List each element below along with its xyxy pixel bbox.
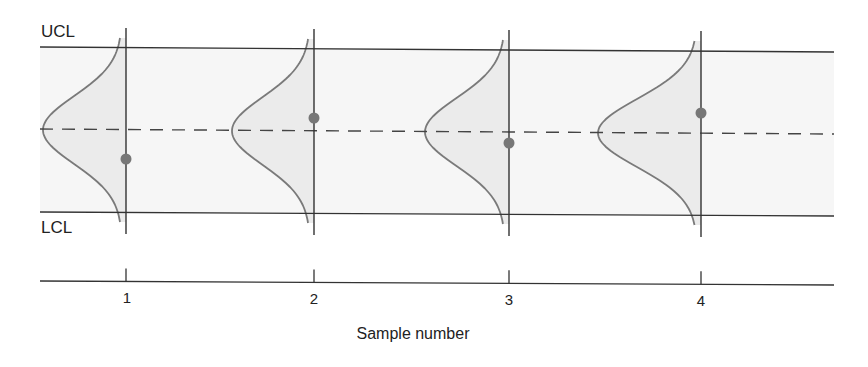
tick-label-2: 2	[310, 290, 318, 307]
tick-label-1: 1	[123, 289, 131, 306]
sample-point-3	[504, 138, 515, 149]
ucl-label: UCL	[41, 22, 75, 42]
control-chart	[0, 0, 868, 367]
x-axis-title: Sample number	[357, 325, 470, 343]
sample-point-2	[309, 113, 320, 124]
sample-point-1	[121, 154, 132, 165]
x-axis	[40, 281, 834, 285]
tick-label-4: 4	[697, 292, 705, 309]
sample-point-4	[696, 108, 707, 119]
lcl-label: LCL	[41, 218, 72, 238]
tick-label-3: 3	[505, 291, 513, 308]
